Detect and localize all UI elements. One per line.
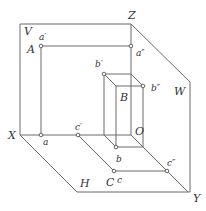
point-c-prime: [76, 133, 80, 137]
label-plane-v: V: [24, 26, 32, 37]
label-axis-X: X: [8, 130, 16, 141]
y-axis: [131, 135, 188, 192]
label-plane-w: W: [174, 86, 185, 97]
label-point-a-prime: a′: [39, 33, 46, 42]
label-point-c-double: c″: [167, 159, 175, 168]
label-axis-Y: Y: [193, 193, 200, 204]
label-point-C: C: [106, 177, 114, 188]
point-a-double: [129, 44, 133, 48]
label-point-c: c: [117, 176, 122, 185]
label-axis-Z: Z: [128, 10, 136, 21]
point-b: [114, 145, 118, 149]
label-point-b: b: [116, 155, 122, 164]
h-plane-left-edge: [20, 135, 77, 192]
label-point-c-prime: c′: [75, 123, 82, 132]
box-bottom-left-edge: [104, 135, 116, 147]
label-point-A: A: [27, 44, 35, 55]
label-point-b-double: b″: [151, 84, 160, 93]
box-top-left-edge: [104, 74, 116, 86]
label-point-a: a: [43, 138, 48, 147]
box-top-right-edge: [131, 74, 143, 86]
point-b-prime: [102, 72, 106, 76]
c-prime-to-c-line: [78, 135, 114, 171]
label-plane-h: H: [80, 178, 90, 189]
point-b-double: [141, 84, 145, 88]
label-origin-O: O: [135, 126, 144, 137]
label-point-B: B: [120, 92, 128, 103]
point-a-prime: [39, 44, 43, 48]
label-point-a-double: a″: [136, 49, 145, 58]
projection-diagram: V A a′ Z a″ b′ B b″ W X a c′ O b c″ C c …: [0, 0, 206, 211]
label-point-b-prime: b′: [95, 60, 103, 69]
point-c-double: [165, 169, 169, 173]
point-c: [112, 169, 116, 173]
